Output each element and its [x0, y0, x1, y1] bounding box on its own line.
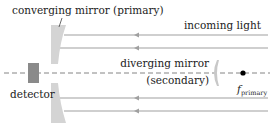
incoming-light-label: incoming light	[184, 19, 262, 31]
secondary-mirror	[214, 60, 219, 86]
arrow-icon	[134, 33, 139, 38]
primary-mirror-upper	[51, 25, 66, 64]
arrow-icon	[134, 96, 139, 101]
telescope-diagram: converging mirror (primary) incoming lig…	[0, 0, 275, 130]
detector	[28, 63, 39, 83]
arrow-icon	[134, 46, 139, 51]
arrow-icon	[134, 109, 139, 114]
focus-label-sub: primary	[241, 89, 267, 97]
secondary-mirror-label-1: diverging mirror	[120, 57, 210, 69]
secondary-mirror-label-2: (secondary)	[146, 74, 209, 86]
focus-label: fprimary	[236, 83, 267, 97]
primary-mirror-label: converging mirror (primary)	[12, 4, 164, 16]
focus-dot-icon	[240, 70, 245, 75]
detector-label: detector	[10, 88, 56, 100]
